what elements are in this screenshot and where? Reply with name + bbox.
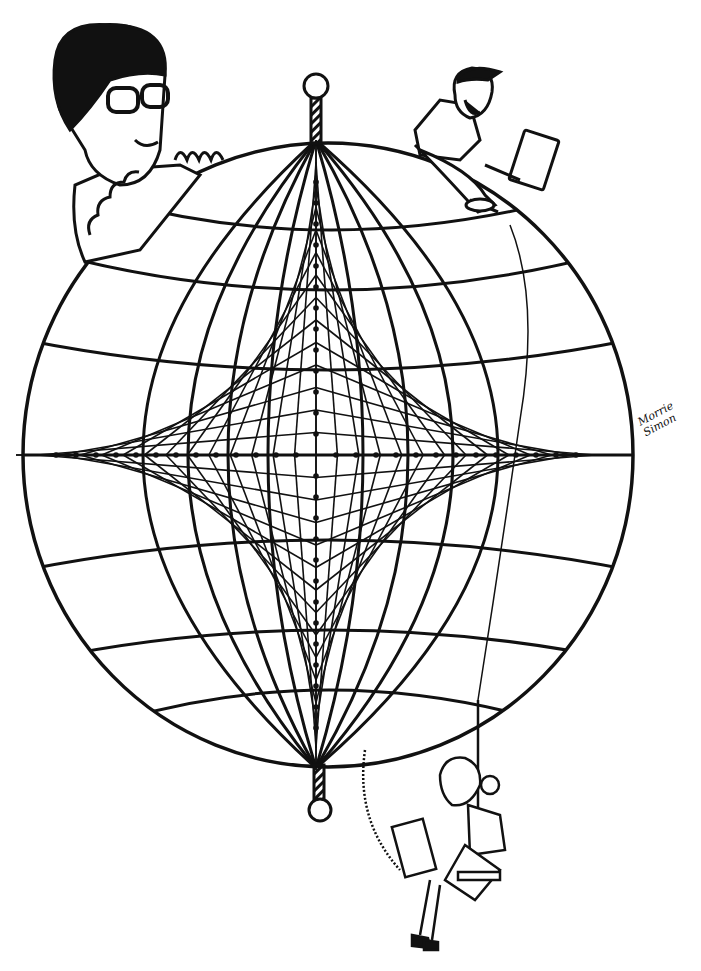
globe-illustration [0, 0, 701, 971]
top-pole [304, 74, 328, 143]
figure-woman-on-swing [363, 700, 505, 950]
figure-man-with-glasses [54, 24, 223, 262]
bottom-pole [309, 765, 331, 821]
